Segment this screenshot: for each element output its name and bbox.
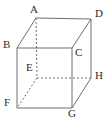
cube-edge-ab (17, 18, 36, 48)
cube-edge-ef (17, 78, 37, 108)
vertex-label-a: A (30, 4, 38, 15)
vertex-label-h: H (95, 70, 103, 81)
vertex-label-g: G (68, 108, 76, 119)
vertex-label-e: E (26, 62, 33, 73)
vertex-label-c: C (75, 47, 82, 58)
vertex-label-d: D (95, 8, 103, 19)
cube-edge-dc (72, 19, 91, 48)
cube-diagram-figure: ADBCEHFG (0, 0, 111, 119)
vertex-label-b: B (3, 39, 10, 50)
vertex-label-f: F (4, 97, 10, 108)
cube-edge-gh (72, 78, 91, 108)
cube-edge-ad (36, 18, 91, 19)
